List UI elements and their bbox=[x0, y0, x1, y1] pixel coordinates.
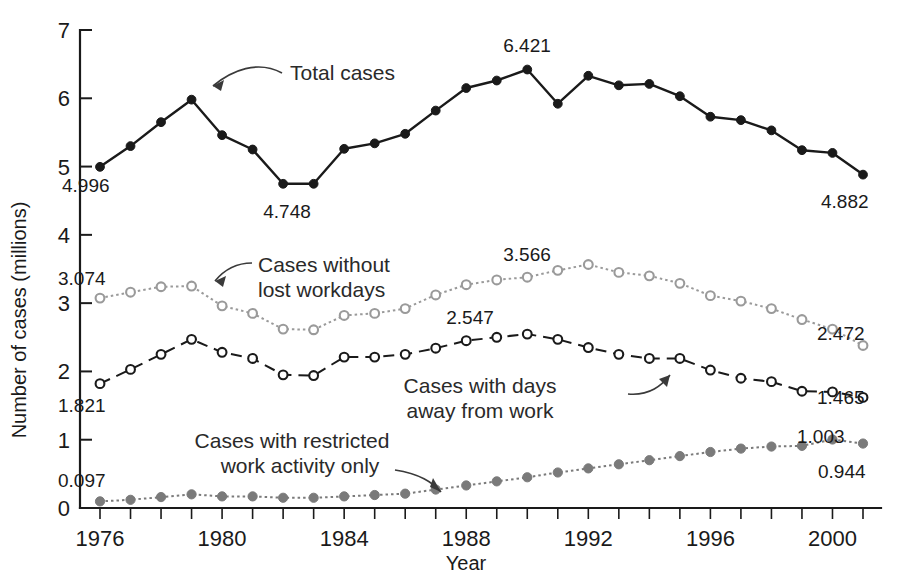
data-point bbox=[157, 282, 166, 291]
data-point bbox=[675, 452, 684, 461]
data-point bbox=[340, 492, 349, 501]
data-point bbox=[614, 460, 623, 469]
data-point bbox=[126, 365, 135, 374]
data-point bbox=[523, 65, 532, 74]
data-point bbox=[370, 353, 379, 362]
data-point bbox=[279, 325, 288, 334]
data-point bbox=[767, 126, 776, 135]
data-point bbox=[706, 447, 715, 456]
data-point bbox=[431, 291, 440, 300]
x-tick-label-1992: 1992 bbox=[564, 526, 613, 551]
data-point bbox=[401, 129, 410, 138]
x-tick-label-1988: 1988 bbox=[442, 526, 491, 551]
value-label-total-1982: 4.748 bbox=[263, 201, 311, 222]
x-tick-label-1984: 1984 bbox=[320, 526, 369, 551]
data-point bbox=[798, 315, 807, 324]
data-point bbox=[401, 489, 410, 498]
data-point bbox=[279, 179, 288, 188]
y-tick-label-6: 6 bbox=[58, 86, 70, 111]
value-label-daysaway-1976: 1.821 bbox=[58, 395, 106, 416]
data-point bbox=[798, 387, 807, 396]
data-point bbox=[614, 350, 623, 359]
data-point bbox=[126, 288, 135, 297]
data-point bbox=[370, 490, 379, 499]
data-point bbox=[798, 146, 807, 155]
x-tick-label-1996: 1996 bbox=[686, 526, 735, 551]
data-point bbox=[248, 309, 257, 318]
annotation-label-cases-without-lost-workdays-line1: Cases without bbox=[258, 253, 390, 276]
annotation-label-total-cases: Total cases bbox=[290, 61, 395, 84]
data-point bbox=[523, 330, 532, 339]
data-point bbox=[156, 492, 165, 501]
data-point bbox=[279, 493, 288, 502]
data-point bbox=[157, 350, 166, 359]
data-point bbox=[95, 497, 104, 506]
y-tick-label-1: 1 bbox=[58, 428, 70, 453]
data-point bbox=[96, 294, 105, 303]
data-point bbox=[218, 131, 227, 140]
data-point bbox=[370, 139, 379, 148]
data-point bbox=[767, 442, 776, 451]
data-point bbox=[737, 374, 746, 383]
data-point bbox=[645, 456, 654, 465]
data-point bbox=[737, 297, 746, 306]
x-tick-label-2000: 2000 bbox=[808, 526, 857, 551]
data-point bbox=[675, 279, 684, 288]
data-point bbox=[126, 142, 135, 151]
data-point bbox=[584, 464, 593, 473]
data-point bbox=[401, 350, 410, 359]
data-point bbox=[553, 266, 562, 275]
data-point bbox=[462, 280, 471, 289]
data-point bbox=[706, 291, 715, 300]
data-point bbox=[248, 354, 257, 363]
data-point bbox=[584, 343, 593, 352]
data-point bbox=[523, 273, 532, 282]
data-point bbox=[187, 490, 196, 499]
data-point bbox=[96, 379, 105, 388]
value-label-daysaway-2000: 1.465 bbox=[817, 387, 865, 408]
data-point bbox=[462, 336, 471, 345]
data-point bbox=[340, 144, 349, 153]
data-point bbox=[584, 71, 593, 80]
data-point bbox=[96, 162, 105, 171]
line-chart-canvas: 01234567 1976198019841988199219962000 Nu… bbox=[0, 0, 905, 588]
x-tick-label-1980: 1980 bbox=[198, 526, 247, 551]
value-label-nolost-1976: 3.074 bbox=[58, 268, 106, 289]
data-point bbox=[309, 371, 318, 380]
value-label-restricted-2000: 1.003 bbox=[797, 426, 845, 447]
data-point bbox=[553, 468, 562, 477]
y-axis-title: Number of cases (millions) bbox=[8, 202, 30, 439]
data-point bbox=[492, 76, 501, 85]
data-point bbox=[645, 80, 654, 89]
x-tick-label-1976: 1976 bbox=[76, 526, 125, 551]
data-point bbox=[187, 335, 196, 344]
data-point bbox=[401, 304, 410, 313]
data-point bbox=[370, 309, 379, 318]
y-tick-label-0: 0 bbox=[58, 496, 70, 521]
data-point bbox=[767, 304, 776, 313]
annotation-label-cases-without-lost-workdays-line2: lost workdays bbox=[258, 278, 385, 301]
data-point bbox=[309, 325, 318, 334]
data-point bbox=[614, 81, 623, 90]
chart-background bbox=[0, 0, 905, 588]
value-label-total-1976: 4.996 bbox=[62, 175, 110, 196]
data-point bbox=[431, 106, 440, 115]
value-label-nolost-2000: 2.472 bbox=[817, 323, 865, 344]
data-point bbox=[553, 335, 562, 344]
value-label-daysaway-1990: 2.547 bbox=[446, 307, 494, 328]
data-point bbox=[279, 370, 288, 379]
value-label-restricted-1976: 0.097 bbox=[58, 470, 106, 491]
data-point bbox=[645, 354, 654, 363]
y-tick-label-2: 2 bbox=[58, 359, 70, 384]
annotation-label-cases-with-days-away-from-work-line2: away from work bbox=[406, 399, 554, 422]
data-point bbox=[614, 268, 623, 277]
y-tick-label-3: 3 bbox=[58, 291, 70, 316]
data-point bbox=[340, 353, 349, 362]
data-point bbox=[706, 366, 715, 375]
data-point bbox=[248, 492, 257, 501]
annotation-label-cases-with-restricted-work-activity-only-line1: Cases with restricted bbox=[195, 429, 390, 452]
data-point bbox=[706, 112, 715, 121]
data-point bbox=[645, 271, 654, 280]
data-point bbox=[767, 377, 776, 386]
data-point bbox=[523, 473, 532, 482]
